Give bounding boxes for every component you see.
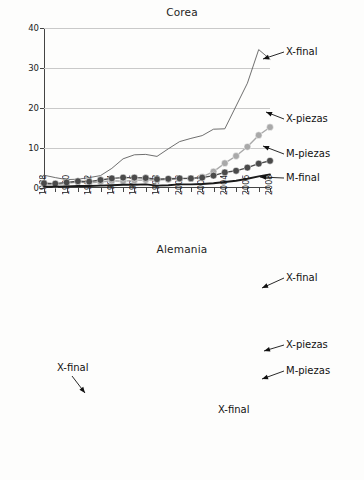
y-tick-label-corea-40: 40 <box>28 23 39 33</box>
data-point-corea-x-piezas-2007 <box>255 132 262 139</box>
x-tick-mark-corea-2007 <box>259 188 260 192</box>
chart-title-alemania: Alemania <box>0 243 364 255</box>
data-point-corea-x-piezas-2006 <box>244 143 251 150</box>
data-point-corea-m-piezas-2001 <box>188 175 195 182</box>
data-point-corea-x-piezas-2004 <box>221 160 228 167</box>
arrow-alemania-m-piezas-head <box>262 375 268 380</box>
data-point-corea-m-piezas-1993 <box>97 177 104 184</box>
data-point-corea-m-piezas-2002 <box>199 174 206 181</box>
data-point-corea-m-piezas-2007 <box>255 160 262 167</box>
data-point-corea-m-piezas-1990 <box>63 179 70 186</box>
data-point-corea-m-piezas-1995 <box>120 174 127 181</box>
data-point-corea-m-piezas-1988 <box>41 180 48 187</box>
x-tick-mark-corea-1995 <box>123 188 124 192</box>
data-point-corea-m-piezas-1996 <box>131 174 138 181</box>
figure-two-panel-line-charts: Corea 010203040 198819901992199419961998… <box>0 0 364 480</box>
x-tick-mark-corea-2001 <box>191 188 192 192</box>
x-tick-mark-corea-1991 <box>78 188 79 192</box>
y-tick-label-corea-20: 20 <box>28 103 39 113</box>
callout-alemania-x-final-right: X-final <box>286 272 318 283</box>
data-point-corea-m-piezas-2006 <box>244 164 251 171</box>
data-point-corea-m-piezas-2005 <box>233 167 240 174</box>
callout-corea-m-final: M-final <box>286 172 320 183</box>
x-tick-mark-corea-2005 <box>236 188 237 192</box>
series-line-corea-x-final <box>44 50 270 180</box>
data-point-corea-m-piezas-1992 <box>86 178 93 185</box>
y-tick-label-corea-10: 10 <box>28 143 39 153</box>
chart-title-corea: Corea <box>0 6 364 18</box>
series-layer-corea <box>44 28 270 188</box>
arrow-alemania-x-final-right-head <box>262 283 268 288</box>
data-point-corea-x-piezas-2005 <box>233 153 240 160</box>
data-point-corea-m-piezas-1994 <box>108 175 115 182</box>
callout-alemania-x-final-inline: X-final <box>218 404 250 415</box>
x-tick-mark-corea-2003 <box>214 188 215 192</box>
arrow-alemania-x-piezas-shaft <box>264 345 284 351</box>
callout-corea-x-piezas: X-piezas <box>286 113 328 124</box>
arrow-alemania-x-piezas-head <box>264 347 270 352</box>
plot-area-corea: 010203040 198819901992199419961998200020… <box>44 28 270 188</box>
data-point-corea-x-piezas-2008 <box>267 124 274 131</box>
chart-panel-alemania: Alemania 050100150200 198819901992199419… <box>0 240 364 480</box>
data-point-corea-m-piezas-1999 <box>165 175 172 182</box>
x-tick-mark-corea-1989 <box>55 188 56 192</box>
y-tick-label-corea-30: 30 <box>28 63 39 73</box>
data-point-corea-m-piezas-2004 <box>221 169 228 176</box>
x-tick-mark-corea-1993 <box>101 188 102 192</box>
callout-alemania-x-piezas: X-piezas <box>286 339 328 350</box>
arrow-alemania-x-final-left-head <box>79 387 85 393</box>
data-point-corea-m-piezas-2008 <box>267 157 274 164</box>
x-tick-mark-corea-1997 <box>146 188 147 192</box>
data-point-corea-m-piezas-2003 <box>210 172 217 179</box>
data-point-corea-m-piezas-2000 <box>176 175 183 182</box>
data-point-corea-m-piezas-1998 <box>154 176 161 183</box>
chart-panel-corea: Corea 010203040 198819901992199419961998… <box>0 0 364 240</box>
data-point-corea-m-piezas-1991 <box>75 178 82 185</box>
arrow-alemania-x-final-left-shaft <box>72 376 85 393</box>
x-tick-mark-corea-1999 <box>168 188 169 192</box>
callout-alemania-m-piezas: M-piezas <box>286 365 330 376</box>
arrow-alemania-m-piezas-shaft <box>262 371 284 379</box>
arrow-alemania-x-final-right-shaft <box>262 278 284 288</box>
callout-alemania-x-final-left: X-final <box>57 362 89 373</box>
callout-corea-x-final: X-final <box>286 46 318 57</box>
data-point-corea-m-piezas-1997 <box>142 175 149 182</box>
callout-corea-m-piezas: M-piezas <box>286 148 330 159</box>
